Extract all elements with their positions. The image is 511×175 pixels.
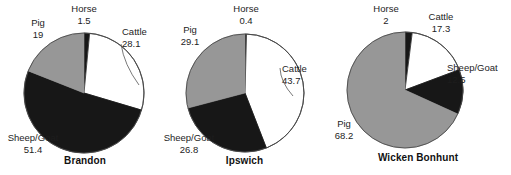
pie-label-name: Pig <box>172 24 208 36</box>
pie-label-name: Pig <box>327 118 361 130</box>
pie-label-sheep-goat: Sheep/Goat51.4 <box>2 132 64 155</box>
pie-label-name: Sheep/Goat <box>447 62 509 74</box>
pie-label-pig: Pig19 <box>22 17 54 40</box>
pie-label-name: Cattle <box>419 11 463 23</box>
pie-label-value: 2 <box>363 15 409 27</box>
pie-label-name: Sheep/Goat <box>2 132 64 144</box>
pie-label-value: 68.2 <box>327 130 361 142</box>
chart-title-wicken: Wicken Bonhunt <box>325 152 511 163</box>
pie-label-name: Sheep/Goat <box>158 132 220 144</box>
pie-label-value: 26.8 <box>158 144 220 156</box>
pie-label-value: 1.5 <box>58 15 110 27</box>
pie-label-value: 0.4 <box>220 15 272 27</box>
pie-label-name: Pig <box>22 17 54 29</box>
pie-label-name: Horse <box>220 3 272 15</box>
chart-title-brandon: Brandon <box>0 155 170 166</box>
pie-label-cattle: Cattle17.3 <box>419 11 463 34</box>
chart-panel-wicken: Horse2Cattle17.3Sheep/Goat12.5Pig68.2 Wi… <box>325 0 511 175</box>
pie-label-name: Horse <box>58 3 110 15</box>
chart-panel-brandon: Horse1.5Cattle28.1Sheep/Goat51.4Pig19 Br… <box>0 0 170 175</box>
pie-label-cattle: Cattle43.7 <box>282 63 326 86</box>
pie-label-horse: Horse2 <box>363 3 409 26</box>
pie-label-sheep-goat: Sheep/Goat26.8 <box>158 132 220 155</box>
pie-label-horse: Horse1.5 <box>58 3 110 26</box>
pie-chart-wicken <box>325 0 511 175</box>
pie-label-value: 28.1 <box>122 38 166 50</box>
pie-label-name: Cattle <box>122 26 166 38</box>
pie-label-value: 17.3 <box>419 23 463 35</box>
pie-label-value: 51.4 <box>2 144 64 156</box>
pie-label-pig: Pig68.2 <box>327 118 361 141</box>
chart-title-ipswich: Ipswich <box>162 155 327 166</box>
pie-label-sheep-goat: Sheep/Goat12.5 <box>447 62 509 85</box>
pie-chart-figure: Horse1.5Cattle28.1Sheep/Goat51.4Pig19 Br… <box>0 0 511 175</box>
pie-label-horse: Horse0.4 <box>220 3 272 26</box>
pie-label-pig: Pig29.1 <box>172 24 208 47</box>
pie-label-value: 12.5 <box>447 74 509 86</box>
chart-panel-ipswich: Horse0.4Cattle43.7Sheep/Goat26.8Pig29.1 … <box>162 0 327 175</box>
pie-label-name: Horse <box>363 3 409 15</box>
pie-label-value: 43.7 <box>282 75 326 87</box>
pie-label-cattle: Cattle28.1 <box>122 26 166 49</box>
pie-label-value: 19 <box>22 29 54 41</box>
pie-label-name: Cattle <box>282 63 326 75</box>
pie-label-value: 29.1 <box>172 36 208 48</box>
